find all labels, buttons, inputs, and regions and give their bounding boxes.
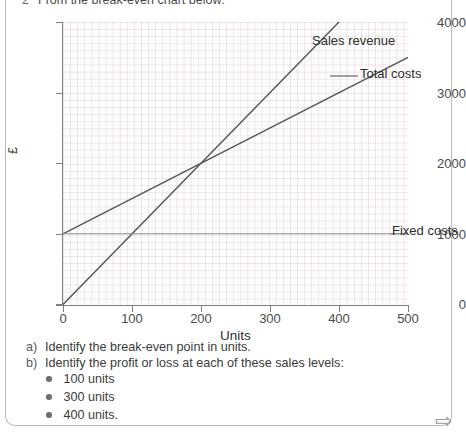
- total-costs-line: [63, 57, 408, 234]
- list-item-label: 100 units: [64, 372, 115, 386]
- continue-arrow-icon: ⇨: [435, 410, 453, 431]
- sub-questions-list: a) Identify the break-even point in unit…: [26, 340, 446, 426]
- sub-question-a-text: Identify the break-even point in units.: [45, 340, 251, 354]
- bullet-dot-icon: [46, 394, 52, 400]
- series-label-fixed-costs: Fixed costs: [392, 223, 458, 238]
- sub-question-b-marker: b): [26, 356, 45, 370]
- chart-series-layer: [0, 8, 466, 338]
- list-item: 400 units.: [46, 408, 446, 422]
- sub-question-b: b) Identify the profit or loss at each o…: [26, 356, 446, 370]
- sub-question-b-text: Identify the profit or loss at each of t…: [45, 356, 344, 370]
- list-item: 300 units: [46, 390, 446, 404]
- question-number: 2: [22, 0, 38, 7]
- break-even-chart: 4000 3000 2000 1000 0 0 100 200 300 400 …: [0, 8, 466, 338]
- sub-question-a-marker: a): [26, 340, 45, 354]
- sub-question-a: a) Identify the break-even point in unit…: [26, 340, 446, 354]
- list-item-label: 400 units.: [64, 408, 119, 422]
- question-stem-text: From the break-even chart below:: [38, 0, 225, 7]
- bullet-dot-icon: [46, 412, 52, 418]
- list-item-label: 300 units: [64, 390, 115, 404]
- question-stem: 2From the break-even chart below:: [22, 0, 225, 7]
- bullet-dot-icon: [46, 376, 52, 382]
- sales-levels-bullet-list: 100 units 300 units 400 units.: [26, 372, 446, 422]
- list-item: 100 units: [46, 372, 446, 386]
- series-label-sales-revenue: Sales revenue: [312, 33, 395, 48]
- series-label-total-costs: Total costs: [360, 66, 421, 81]
